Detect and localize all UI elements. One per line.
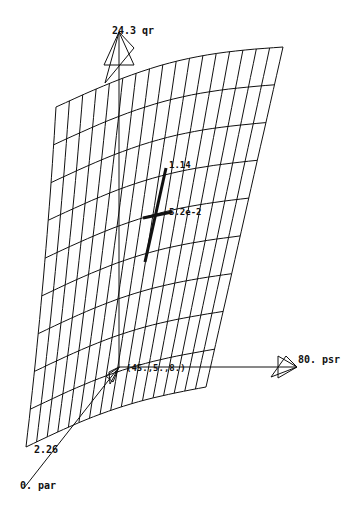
point-center-label: 5.2e-2 — [169, 207, 202, 217]
mesh-column-line — [121, 61, 176, 407]
origin-label: (45.,5.,8.) — [126, 363, 186, 373]
mesh-row-line — [54, 85, 275, 145]
surface-plot-canvas — [0, 0, 358, 512]
wireframe-surface — [26, 47, 283, 447]
mesh-column-line — [132, 58, 190, 403]
mesh-column-line — [26, 107, 56, 447]
qr-axis-label: 24.3 qr — [112, 26, 154, 36]
mesh-row-line — [56, 47, 283, 107]
psr-axis-label: 80. psr — [298, 355, 340, 365]
mesh-column-line — [174, 50, 243, 393]
point-upper-label: 1.14 — [169, 160, 191, 170]
par-axis-label: 0. par — [20, 481, 56, 491]
mesh-column-line — [206, 47, 283, 387]
par-tick-label: 2.26 — [34, 445, 58, 455]
mesh-column-line — [47, 95, 82, 437]
mesh-row-line — [26, 387, 206, 447]
mesh-column-line — [195, 48, 269, 389]
